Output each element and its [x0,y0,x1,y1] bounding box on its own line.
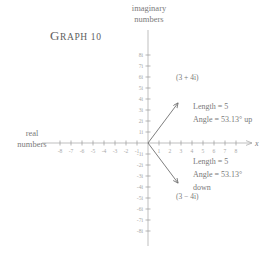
real-axis-label: real numbers [4,128,60,149]
x-tick-label: -3 [113,148,118,154]
annotation-up-angle: Angle = 53.13° up [193,113,252,126]
y-tick-label: 2i [139,118,144,124]
x-tick-label: 2 [169,148,172,154]
imaginary-axis-label-line2: numbers [112,14,186,25]
x-tick-label: 7 [224,148,227,154]
imaginary-axis-label-line1: imaginary [112,3,186,14]
real-axis-label-line2: numbers [4,139,60,150]
imaginary-axis-label: imaginary numbers [112,3,186,24]
x-tick-label: 1 [158,148,161,154]
annotation-up-length: Length = 5 [193,100,252,113]
page-title: GRAPH 10 [50,28,102,44]
title-rest: RAPH [60,32,88,42]
y-tick-label: 8i [139,52,144,58]
complex-plane-plot: -8-7-6-5-4-3-2-112345678 8i7i6i5i4i3i2i1… [0,0,266,253]
x-axis-name-label: x [255,139,259,149]
x-axis-ticks: -8-7-6-5-4-3-2-112345678 [58,141,238,154]
x-tick-label: -2 [124,148,129,154]
y-tick-label: 7i [139,63,144,69]
annotation-upper-vector: Length = 5 Angle = 53.13° up [193,100,252,126]
y-tick-label: -2i [137,162,144,168]
title-first-letter: G [50,28,60,43]
y-tick-label: -6i [137,206,144,212]
graph-figure: -8-7-6-5-4-3-2-112345678 8i7i6i5i4i3i2i1… [0,0,266,253]
y-tick-label: 1i [139,129,144,135]
annotation-down-direction: down [193,181,242,194]
x-tick-label: 5 [202,148,205,154]
real-axis-label-line1: real [4,128,60,139]
point-label-upper: (3 + 4i) [176,73,199,82]
y-tick-label: 5i [139,85,144,91]
x-tick-label: 3 [180,148,183,154]
annotation-down-angle: Angle = 53.13° [193,168,242,181]
y-tick-label: -5i [137,195,144,201]
y-tick-label: -3i [137,173,144,179]
x-tick-label: 8 [235,148,238,154]
y-tick-label: -7i [137,217,144,223]
annotation-down-length: Length = 5 [193,155,242,168]
x-tick-label: 6 [213,148,216,154]
y-tick-label: 6i [139,74,144,80]
y-tick-label: -8i [137,228,144,234]
x-tick-label: -4 [102,148,107,154]
x-tick-label: -7 [69,148,74,154]
x-tick-label: 4 [191,148,194,154]
x-tick-label: -6 [80,148,85,154]
vector-3-plus-4i [148,103,178,143]
y-tick-label: 4i [139,96,144,102]
annotation-lower-vector: Length = 5 Angle = 53.13° down [193,155,242,195]
y-tick-label: -4i [137,184,144,190]
axis-lines [42,30,252,246]
y-tick-label: -1i [137,151,144,157]
x-tick-label: -5 [91,148,96,154]
title-number: 10 [91,32,102,42]
vector-3-minus-4i [148,143,178,183]
y-tick-label: 3i [139,107,144,113]
